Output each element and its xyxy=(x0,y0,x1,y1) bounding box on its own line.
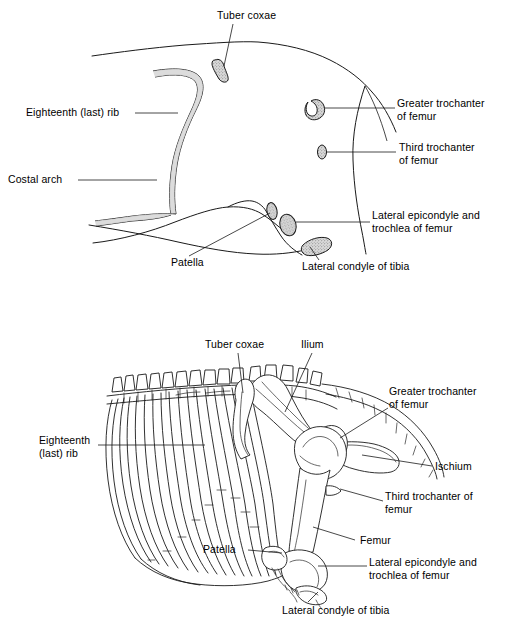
tibia-edge-1 xyxy=(290,592,297,602)
lateral-condyle-tibia-bone xyxy=(296,586,327,605)
lateral-condyle-tibia-landmark xyxy=(301,237,331,255)
leader-croup-pointer xyxy=(365,86,387,141)
label-top-lateral-epicondyle-line1: Lateral epicondyle and xyxy=(372,209,480,222)
label-top-eighteenth-rib: Eighteenth (last) rib xyxy=(26,106,119,119)
rib-cage xyxy=(106,388,285,586)
label-bottom-lateral-epicondyle-line1: Lateral epicondyle and xyxy=(369,556,477,569)
label-bottom-third-trochanter-line2: femur xyxy=(385,503,412,516)
topline-contour xyxy=(92,42,372,92)
label-top-third-trochanter-line2: of femur xyxy=(399,154,438,167)
patella-bone xyxy=(262,546,287,570)
label-bottom-patella: Patella xyxy=(203,543,236,556)
croup-contour xyxy=(372,92,396,132)
label-bottom-lateral-condyle-tibia: Lateral condyle of tibia xyxy=(282,604,389,617)
tuber-coxae-landmark xyxy=(212,59,228,82)
label-top-third-trochanter-line1: Third trochanter xyxy=(399,141,475,154)
label-top-greater-trochanter-line2: of femur xyxy=(397,110,436,123)
third-trochanter-landmark xyxy=(318,145,327,159)
label-bottom-tuber-coxae: Tuber coxae xyxy=(205,338,264,351)
label-top-lateral-epicondyle-line2: trochlea of femur xyxy=(372,222,453,235)
leader-patella xyxy=(189,213,270,256)
label-bottom-femur: Femur xyxy=(360,534,391,547)
leader-tuber-coxae xyxy=(224,24,233,66)
label-bottom-eighteenth-rib-line1: Eighteenth xyxy=(39,434,90,447)
third-trochanter-bone xyxy=(326,486,341,496)
lateral-epicondyle-landmark xyxy=(277,212,298,237)
femur-shaft xyxy=(289,468,330,553)
label-top-patella: Patella xyxy=(171,256,204,269)
label-top-lateral-condyle-tibia: Lateral condyle of tibia xyxy=(302,260,409,273)
label-bottom-ilium: Ilium xyxy=(301,338,324,351)
leader-b-femur xyxy=(313,527,355,540)
top-panel-leaders xyxy=(78,24,396,260)
label-bottom-third-trochanter-line1: Third trochanter of xyxy=(385,490,473,503)
leader-b-third-trochanter xyxy=(340,489,383,501)
label-bottom-lateral-epicondyle-line2: trochlea of femur xyxy=(369,569,450,582)
label-bottom-ischium: Ischium xyxy=(435,460,472,473)
greater-trochanter-landmark xyxy=(305,100,325,120)
label-top-tuber-coxae: Tuber coxae xyxy=(217,9,276,22)
ventral-abdominal-contour xyxy=(93,207,285,243)
leader-b-greater-trochanter xyxy=(340,408,388,438)
label-bottom-eighteenth-rib-line2: (last) rib xyxy=(39,447,78,460)
label-top-costal-arch: Costal arch xyxy=(8,173,62,186)
anatomical-figure xyxy=(0,0,505,627)
lower-flank-contour xyxy=(89,225,305,254)
leader-b-ilium xyxy=(285,353,312,412)
vertebral-column-ventral xyxy=(107,394,337,409)
label-top-greater-trochanter-line1: Greater trochanter xyxy=(397,97,485,110)
top-panel-contours xyxy=(89,42,396,256)
figure-page: Tuber coxae Eighteenth (last) rib Costal… xyxy=(0,0,505,627)
label-bottom-greater-trochanter-line1: Greater trochanter xyxy=(389,385,477,398)
spinous-processes xyxy=(112,365,322,392)
eighteenth-rib-inner xyxy=(155,75,198,215)
hindlimb-front-contour xyxy=(353,86,366,254)
label-bottom-greater-trochanter-line2: of femur xyxy=(389,398,428,411)
